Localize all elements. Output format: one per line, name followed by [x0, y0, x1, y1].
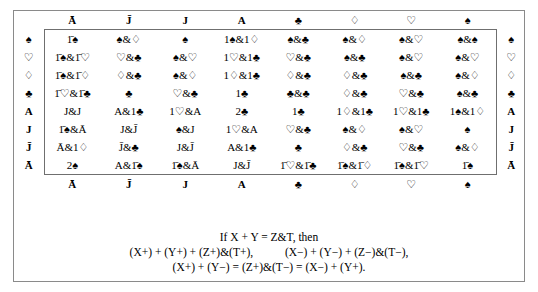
row-label-right-4: A: [496, 102, 526, 120]
cell-2-5: ♢&♣: [327, 66, 384, 84]
footer-header-3: A: [214, 175, 271, 194]
cell-5-7: ♠: [440, 120, 497, 138]
cell-3-4: ♣&♣: [270, 84, 327, 102]
column-header-6: ♡: [383, 11, 440, 30]
cell-6-5: ♢&♣: [327, 138, 384, 156]
cell-5-2: ♠&J: [157, 120, 214, 138]
table-row: J 1̄♠&Ā J&J̄ ♠&J 1♡&A ♡&♣ ♠&♢ ♠&♡ ♠ J: [14, 120, 526, 138]
footer-corner-right: [496, 175, 526, 194]
cell-6-1: J̄&♣: [101, 138, 158, 156]
formula-block: If X + Y = Z&T, then (X+) + (Y+) + (Z+)&…: [14, 230, 524, 275]
cell-5-3: 1♡&A: [214, 120, 271, 138]
cell-6-7: ♠&♢: [440, 138, 497, 156]
cell-6-0: Ā&1♢: [44, 138, 101, 156]
row-label-left-1: ♡: [14, 48, 44, 66]
cell-7-7: 1̄♠: [440, 156, 497, 175]
cell-1-2: ♠&♡: [157, 48, 214, 66]
cell-3-1: ♣: [101, 84, 158, 102]
cell-7-6: 1̄♠&1̄♡: [383, 156, 440, 175]
cell-6-3: A&1♣: [214, 138, 271, 156]
footer-header-1: J̄: [101, 175, 158, 194]
cell-5-4: ♡&♣: [270, 120, 327, 138]
cell-2-0: 1̄♠&1̄♢: [44, 66, 101, 84]
row-label-right-2: ♢: [496, 66, 526, 84]
footer-header-0: Ā: [44, 175, 101, 194]
footer-corner-left: [14, 175, 44, 194]
cell-6-4: ♣: [270, 138, 327, 156]
table-row: ♠ 1̄♠ ♠&♢ ♠ 1♠&1♢ ♠&♣ ♠&♢ ♠&♡ ♠&♠ ♠: [14, 30, 526, 49]
header-corner-right: [496, 11, 526, 30]
cell-0-4: ♠&♣: [270, 30, 327, 49]
cell-1-3: 1♡&1♣: [214, 48, 271, 66]
cell-0-7: ♠&♠: [440, 30, 497, 49]
cell-2-6: ♠&♣: [383, 66, 440, 84]
column-header-2: J: [157, 11, 214, 30]
cell-5-1: J&J̄: [101, 120, 158, 138]
cell-1-5: ♠&♣: [327, 48, 384, 66]
cell-6-2: J&J̄: [157, 138, 214, 156]
column-header-1: J̄: [101, 11, 158, 30]
footer-header-2: J: [157, 175, 214, 194]
column-header-4: ♣: [270, 11, 327, 30]
footer-header-4: ♣: [270, 175, 327, 194]
footer-header-6: ♡: [383, 175, 440, 194]
formula-line-1: If X + Y = Z&T, then: [14, 230, 524, 245]
formula-line-3: (X+) + (Y−) = (Z+)&(T−) = (X−) + (Y+).: [14, 260, 524, 275]
cell-7-5: 1̄♠&1̄♢: [327, 156, 384, 175]
formula-line-2a: (X+) + (Y+) + (Z+)&(T+),: [130, 246, 254, 258]
cell-0-6: ♠&♡: [383, 30, 440, 49]
cell-1-1: ♡&♣: [101, 48, 158, 66]
cell-5-5: ♠&♢: [327, 120, 384, 138]
table-row: A J&J A&1♣ 1♡&A 2♣ 1♣ 1♢&1♣ 1♡&1♣ 1♠&1♢ …: [14, 102, 526, 120]
table-row: Ā 2♠ A&1̄♠ 1̄♠&Ā J&J̄ 1̄♡&1̄♣ 1̄♠&1̄♢ 1̄…: [14, 156, 526, 175]
row-label-right-3: ♣: [496, 84, 526, 102]
cell-0-2: ♠: [157, 30, 214, 49]
cell-7-0: 2♠: [44, 156, 101, 175]
cell-4-7: 1♠&1♢: [440, 102, 497, 120]
column-header-7: ♠: [440, 11, 497, 30]
cell-2-4: ♢&♣: [270, 66, 327, 84]
row-label-left-6: J̄: [14, 138, 44, 156]
table-row: J̄ Ā&1♢ J̄&♣ J&J̄ A&1♣ ♣ ♢&♣ ♡&♣ ♠&♢ J̄: [14, 138, 526, 156]
cell-3-5: ♢&♣: [327, 84, 384, 102]
row-label-left-5: J: [14, 120, 44, 138]
column-header-3: A: [214, 11, 271, 30]
table-row: ♢ 1̄♠&1̄♢ ♢&♣ ♠&♢ 1♢&1♣ ♢&♣ ♢&♣ ♠&♣ ♠&♢ …: [14, 66, 526, 84]
cell-4-2: 1♡&A: [157, 102, 214, 120]
cell-2-7: ♠&♢: [440, 66, 497, 84]
cell-7-4: 1̄♡&1̄♣: [270, 156, 327, 175]
row-label-left-3: ♣: [14, 84, 44, 102]
cell-4-6: 1♡&1♣: [383, 102, 440, 120]
cell-1-7: ♠&♡: [440, 48, 497, 66]
cell-7-3: J&J̄: [214, 156, 271, 175]
header-corner-left: [14, 11, 44, 30]
footer-header-5: ♢: [327, 175, 384, 194]
cell-7-2: 1̄♠&Ā: [157, 156, 214, 175]
row-label-left-2: ♢: [14, 66, 44, 84]
cell-2-2: ♠&♢: [157, 66, 214, 84]
column-header-5: ♢: [327, 11, 384, 30]
table-row: ♡ 1̄♠&1̄♡ ♡&♣ ♠&♡ 1♡&1♣ ♡&♣ ♠&♣ ♠&♡ ♠&♡ …: [14, 48, 526, 66]
formula-line-2: (X+) + (Y+) + (Z+)&(T+), (X−) + (Y−) + (…: [14, 245, 524, 260]
footer-header-7: ♠: [440, 175, 497, 194]
cell-0-1: ♠&♢: [101, 30, 158, 49]
cell-0-3: 1♠&1♢: [214, 30, 271, 49]
figure-panel: Ā J̄ J A ♣ ♢ ♡ ♠ ♠ 1̄♠ ♠&♢ ♠ 1♠&1♢ ♠&♣ ♠…: [13, 10, 525, 282]
row-label-left-4: A: [14, 102, 44, 120]
table-row: ♣ 1̄♡&1̄♣ ♣ ♡&♣ 1♣ ♣&♣ ♢&♣ ♡&♣ ♠&♣ ♣: [14, 84, 526, 102]
cell-3-3: 1♣: [214, 84, 271, 102]
cell-4-0: J&J: [44, 102, 101, 120]
cell-6-6: ♡&♣: [383, 138, 440, 156]
cell-3-6: ♡&♣: [383, 84, 440, 102]
suit-operation-matrix: Ā J̄ J A ♣ ♢ ♡ ♠ ♠ 1̄♠ ♠&♢ ♠ 1♠&1♢ ♠&♣ ♠…: [14, 11, 526, 193]
cell-1-6: ♠&♡: [383, 48, 440, 66]
table-header-row: Ā J̄ J A ♣ ♢ ♡ ♠: [14, 11, 526, 30]
cell-3-0: 1̄♡&1̄♣: [44, 84, 101, 102]
cell-0-0: 1̄♠: [44, 30, 101, 49]
cell-3-2: ♡&♣: [157, 84, 214, 102]
cell-5-6: ♠&♡: [383, 120, 440, 138]
cell-4-1: A&1♣: [101, 102, 158, 120]
row-label-left-0: ♠: [14, 30, 44, 49]
cell-7-1: A&1̄♠: [101, 156, 158, 175]
formula-line-2b: (X−) + (Y−) + (Z−)&(T−),: [285, 246, 409, 258]
